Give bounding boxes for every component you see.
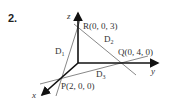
line-d3-label: D3 bbox=[96, 69, 106, 80]
point-p-label: P(2, 0, 0) bbox=[61, 81, 95, 91]
y-axis-label: y bbox=[150, 66, 155, 76]
coordinate-diagram: z y x R(0, 0, 3) Q(0, 4, 0) P(2, 0, 0) D… bbox=[0, 0, 170, 99]
z-axis-label: z bbox=[66, 11, 71, 21]
point-r-label: R(0, 0, 3) bbox=[83, 21, 118, 31]
line-d2-label: D2 bbox=[104, 34, 114, 45]
x-axis-label: x bbox=[31, 90, 36, 99]
line-d3 bbox=[40, 56, 148, 84]
line-d1-label: D1 bbox=[55, 46, 65, 57]
point-q-label: Q(0, 4, 0) bbox=[118, 47, 153, 57]
